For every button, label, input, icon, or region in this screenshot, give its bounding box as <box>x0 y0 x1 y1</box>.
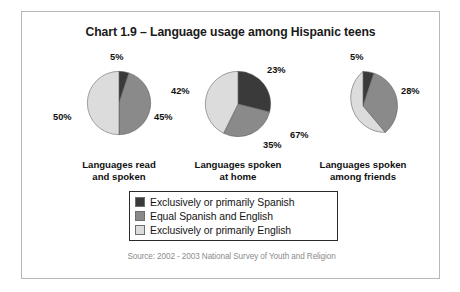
pie-2-svg <box>204 70 272 138</box>
legend-item-spanish: Exclusively or primarily Spanish <box>135 195 333 209</box>
pie-3-label-equal: 28% <box>401 86 420 96</box>
legend-swatch-spanish-icon <box>135 197 145 207</box>
pie-2-label-equal: 35% <box>263 140 282 150</box>
pie-1-label-english: 50% <box>53 112 72 122</box>
chart-title: Chart 1.9 – Language usage among Hispani… <box>22 25 439 39</box>
pie-3-label-spanish: 5% <box>350 52 363 62</box>
legend-swatch-english-icon <box>135 225 145 235</box>
chart-figure-frame: Chart 1.9 – Language usage among Hispani… <box>21 11 440 279</box>
category-labels-row: Languages read and spoken Languages spok… <box>22 159 441 191</box>
pie-1-slice-english <box>87 71 119 134</box>
legend-label-english: Exclusively or primarily English <box>150 225 291 236</box>
pie-1-label-spanish: 5% <box>110 52 123 62</box>
pie-2-label-english: 42% <box>171 86 190 96</box>
pie-1-svg <box>86 70 152 136</box>
legend-label-equal: Equal Spanish and English <box>150 211 273 222</box>
pie-3-svg <box>327 70 399 142</box>
legend-item-equal: Equal Spanish and English <box>135 209 333 223</box>
legend-label-spanish: Exclusively or primarily Spanish <box>150 197 295 208</box>
pie-chart-languages-spoken-among-friends: 5% 28% 67% <box>288 50 438 158</box>
chart-legend: Exclusively or primarily Spanish Equal S… <box>129 191 338 241</box>
legend-item-english: Exclusively or primarily English <box>135 223 333 237</box>
category-label-3-line2: among friends <box>288 171 438 183</box>
category-label-3-line1: Languages spoken <box>288 159 438 171</box>
pie-3-label-english: 67% <box>290 130 309 140</box>
pie-2-label-spanish: 23% <box>267 65 286 75</box>
source-note: Source: 2002 - 2003 National Survey of Y… <box>22 252 441 261</box>
legend-swatch-equal-icon <box>135 211 145 221</box>
category-label-3: Languages spoken among friends <box>288 159 438 183</box>
pie-charts-row: 5% 45% 50% 23% 35% 42% <box>22 50 441 158</box>
